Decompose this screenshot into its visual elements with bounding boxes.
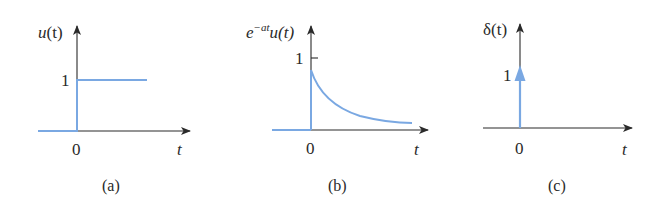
- x-origin-label: 0: [306, 139, 315, 158]
- x-axis-label: t: [414, 140, 420, 159]
- impulse-arrowhead: [515, 65, 526, 81]
- y-tick-label: 1: [61, 71, 70, 90]
- y-tick-label: 1: [295, 49, 304, 68]
- x-axis-label: t: [622, 140, 628, 159]
- panel-c-unit-impulse: δ(t) 1 0 t (c): [483, 20, 632, 195]
- y-tick-label: 1: [503, 66, 512, 85]
- panel-caption: (a): [102, 177, 120, 195]
- panel-caption: (c): [548, 177, 566, 195]
- y-axis-label: u(t): [38, 23, 63, 42]
- panel-caption: (b): [328, 177, 347, 195]
- y-axis-label: e−atu(t): [246, 21, 294, 42]
- panel-b-decaying-exponential: e−atu(t) 1 0 t (b): [246, 21, 428, 195]
- exponential-curve: [311, 70, 412, 123]
- y-axis-label: δ(t): [483, 20, 507, 39]
- x-origin-label: 0: [515, 139, 524, 158]
- panel-a-unit-step: u(t) 1 0 t (a): [38, 23, 190, 195]
- step-signal: [38, 80, 147, 131]
- x-axis-label: t: [177, 140, 183, 159]
- x-origin-label: 0: [72, 140, 81, 159]
- signals-figure: u(t) 1 0 t (a) e−atu(t) 1 0 t (b) δ(t) 1…: [0, 0, 656, 204]
